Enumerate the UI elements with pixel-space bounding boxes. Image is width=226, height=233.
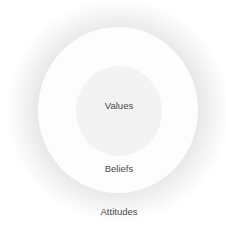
- values-layer: [76, 66, 162, 156]
- beliefs-label: Beliefs: [79, 163, 159, 174]
- values-label: Values: [79, 100, 159, 111]
- attitudes-label: Attitudes: [79, 206, 159, 217]
